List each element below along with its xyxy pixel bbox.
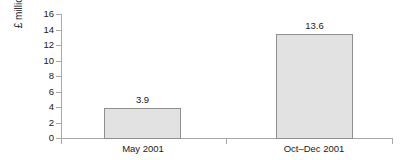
bar-chart: £ million 16 14 12 10 8 6 4 2 0 3.9 13.6… — [0, 0, 416, 160]
y-axis-tick-labels: 16 14 12 10 8 6 4 2 0 — [30, 0, 54, 160]
y-tick-label: 14 — [32, 25, 54, 35]
y-tick-label: 0 — [32, 133, 54, 143]
x-category-label-may-2001: May 2001 — [82, 143, 204, 155]
y-tick-label: 8 — [32, 71, 54, 81]
bar-value-label: 3.9 — [104, 94, 181, 105]
y-tick-label: 10 — [32, 56, 54, 66]
x-tick-mark — [392, 138, 393, 144]
x-tick-mark — [226, 138, 227, 144]
y-axis-title: £ million — [10, 0, 28, 80]
x-tick-mark — [61, 138, 62, 144]
x-category-label-oct-dec-2001: Oct–Dec 2001 — [253, 143, 375, 155]
y-tick-label: 4 — [32, 102, 54, 112]
y-tick-label: 12 — [32, 40, 54, 50]
y-axis-line — [61, 14, 62, 138]
bar-oct-dec-2001 — [276, 34, 353, 140]
y-tick-label: 6 — [32, 87, 54, 97]
y-axis-title-text: £ million — [10, 0, 28, 80]
bar-value-label: 13.6 — [276, 20, 353, 31]
y-tick-label: 16 — [32, 9, 54, 19]
bar-may-2001 — [104, 108, 181, 139]
y-tick-label: 2 — [32, 118, 54, 128]
